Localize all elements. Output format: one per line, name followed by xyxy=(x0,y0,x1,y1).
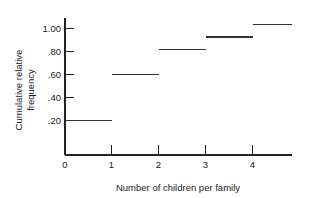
y-tick-label-0.60: .60 xyxy=(48,69,61,80)
x-tick-label-2: 2 xyxy=(156,159,161,170)
x-tick-label-1: 1 xyxy=(109,159,114,170)
y-tick-label-1.00: 1.00 xyxy=(43,23,62,34)
x-tick-marks xyxy=(112,145,253,155)
y-tick-label-0.40: .40 xyxy=(48,92,61,103)
y-axis-title-line-2: frequency xyxy=(25,69,36,111)
y-tick-label-0.80: .80 xyxy=(48,46,61,57)
chart-svg: 1.00 .80 .60 .40 .20 0 1 2 3 4 Cumulativ… xyxy=(0,0,316,198)
x-axis-title: Number of children per family xyxy=(116,182,240,193)
y-tick-label-0.20: .20 xyxy=(48,115,61,126)
x-tick-label-3: 3 xyxy=(203,159,208,170)
y-axis-title-line-1: Cumulative relative xyxy=(13,50,24,131)
step-series xyxy=(65,25,292,121)
cumulative-frequency-chart: 1.00 .80 .60 .40 .20 0 1 2 3 4 Cumulativ… xyxy=(0,0,316,198)
x-tick-label-4: 4 xyxy=(250,159,255,170)
x-tick-label-0: 0 xyxy=(62,159,67,170)
y-axis-title: Cumulative relative frequency xyxy=(13,50,36,131)
y-tick-marks xyxy=(65,29,74,121)
